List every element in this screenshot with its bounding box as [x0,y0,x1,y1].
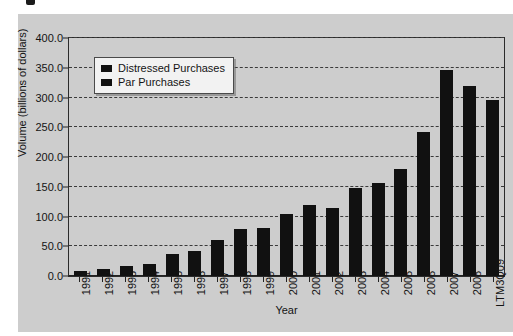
x-tick-label-2000: 2000 [287,271,299,295]
y-tick-mark-150 [63,186,68,187]
x-tick-label-2008: 2008 [471,271,483,295]
bar-slot-2008 [458,38,481,276]
x-tick-label-1996: 1996 [195,271,207,295]
bar-slot-2000 [275,38,298,276]
bar-2003[interactable] [349,188,362,276]
y-tick-label-100: 100.0 [35,211,63,223]
x-tick-label-2007: 2007 [448,271,460,295]
x-tick-label-1993: 1993 [126,271,138,295]
figure-container: Volume (billions of dollars) 400.0350.03… [0,0,513,336]
legend-swatch-icon-0 [101,65,112,72]
bar-slot-2002 [321,38,344,276]
y-tick-mark-50 [63,246,68,247]
legend-label-1: Par Purchases [118,75,190,89]
x-tick-label-2001: 2001 [310,271,322,295]
bar-slot-2004 [367,38,390,276]
x-tick-label-LTM3Q09: LTM3Q09 [494,259,506,307]
bar-slot-2003 [344,38,367,276]
x-tick-label-2006: 2006 [425,271,437,295]
bar-2007[interactable] [440,70,453,276]
scan-artifact [26,0,35,5]
y-axis-title: Volume (billions of dollars) [16,29,28,157]
x-tick-label-1995: 1995 [172,271,184,295]
bar-slot-2007 [435,38,458,276]
bar-1998[interactable] [234,229,247,276]
x-tick-label-2005: 2005 [402,271,414,295]
y-tick-mark-100 [63,216,68,217]
legend-item-0: Distressed Purchases [101,61,225,75]
bar-2002[interactable] [326,208,339,276]
x-tick-label-2003: 2003 [356,271,368,295]
bar-slot-1991 [69,38,92,276]
bar-2005[interactable] [394,169,407,276]
y-tick-mark-400 [63,38,68,39]
legend-swatch-icon-1 [101,79,112,86]
x-tick-label-1992: 1992 [103,271,115,295]
bar-slot-LTM3Q09 [481,38,504,276]
bar-2001[interactable] [303,205,316,276]
legend-label-0: Distressed Purchases [118,61,225,75]
x-axis-title: Year [68,304,505,316]
x-tick-label-2002: 2002 [333,271,345,295]
bar-slot-1999 [252,38,275,276]
x-tick-label-2004: 2004 [379,271,391,295]
bar-LTM3Q09[interactable] [486,100,499,276]
x-tick-label-1998: 1998 [241,271,253,295]
bar-1999[interactable] [257,228,270,276]
bar-slot-2005 [389,38,412,276]
y-tick-label-200: 200.0 [35,151,63,163]
bar-2008[interactable] [463,86,476,276]
bar-2004[interactable] [372,183,385,276]
x-tick-label-1997: 1997 [218,271,230,295]
bar-slot-2006 [412,38,435,276]
y-tick-label-0: 0.0 [48,270,63,282]
bar-2000[interactable] [280,214,293,276]
chart-panel: Volume (billions of dollars) 400.0350.03… [18,14,513,332]
x-tick-label-1994: 1994 [149,271,161,295]
y-tick-mark-200 [63,157,68,158]
y-tick-label-300: 300.0 [35,92,63,104]
bar-2006[interactable] [417,132,430,276]
chart-legend: Distressed PurchasesPar Purchases [94,57,234,94]
y-tick-mark-350 [63,67,68,68]
x-tick-label-1999: 1999 [264,271,276,295]
y-tick-label-250: 250.0 [35,121,63,133]
y-tick-mark-300 [63,97,68,98]
bar-slot-2001 [298,38,321,276]
x-tick-label-1991: 1991 [80,271,92,295]
y-tick-label-150: 150.0 [35,181,63,193]
y-tick-label-400: 400.0 [35,32,63,44]
y-tick-label-350: 350.0 [35,62,63,74]
y-tick-label-50: 50.0 [42,240,63,252]
legend-item-1: Par Purchases [101,75,225,89]
y-tick-mark-250 [63,127,68,128]
